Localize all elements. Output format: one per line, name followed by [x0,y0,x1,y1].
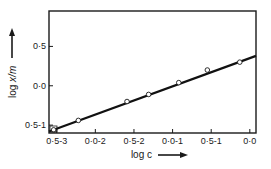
data-point [51,128,56,133]
x-tick-label: 0·5-1 [201,136,222,146]
x-tick-label: 0·5-3 [46,136,67,146]
data-point [146,92,151,97]
plot-frame [49,11,256,133]
data-point [76,118,81,123]
x-axis-label: log c [131,149,152,160]
x-tick-label: 0·5-2 [123,136,144,146]
x-tick-label: 0·0 [243,136,256,146]
data-point [237,60,242,65]
x-axis-arrow-icon [158,152,188,158]
x-tick-label: 0·0-2 [85,136,106,146]
y-tick-label: 0·0 [33,81,46,91]
data-point [176,80,181,85]
data-point [125,99,130,104]
data-point [205,68,210,73]
y-tick-label: 0·5-1 [25,120,46,130]
x-tick-label: 0·0-1 [162,136,183,146]
y-axis-label: log x/m [7,66,18,98]
chart: 0·5-30·0-20·5-20·0-10·5-10·00·50·00·5-1 … [0,0,271,169]
plot-border [49,11,256,133]
y-tick-label: 0·5 [33,41,46,51]
y-axis-label-group: log x/m [7,66,18,98]
y-axis-arrow-icon [9,28,15,58]
axis-ticks: 0·5-30·0-20·5-20·0-10·5-10·00·50·00·5-1 [25,41,256,146]
